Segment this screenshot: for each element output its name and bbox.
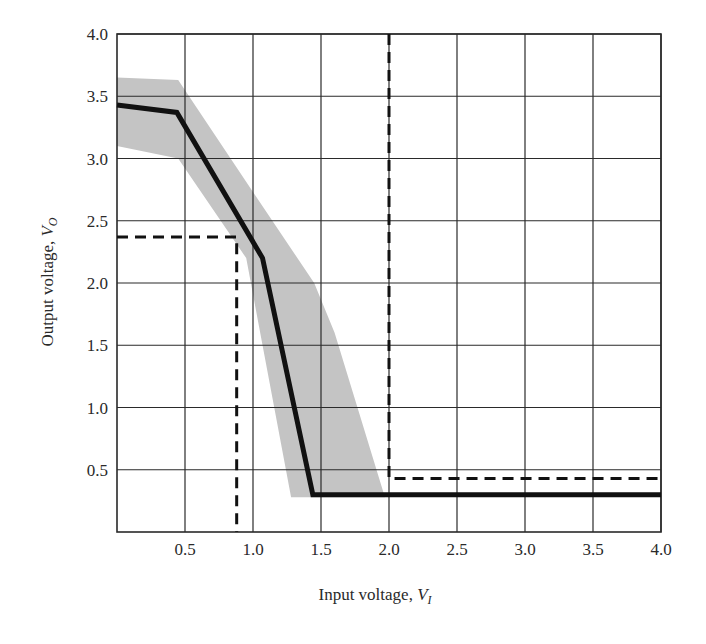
transfer-characteristic-chart: 0.51.01.52.02.53.03.54.00.51.01.52.02.53… xyxy=(0,0,706,644)
x-tick-label: 0.5 xyxy=(174,540,195,559)
x-tick-label: 4.0 xyxy=(650,540,671,559)
x-tick-label: 2.5 xyxy=(446,540,467,559)
y-tick-label: 3.5 xyxy=(87,87,108,106)
y-tick-label: 2.0 xyxy=(87,274,108,293)
x-axis-label: Input voltage, VI xyxy=(318,585,432,607)
y-tick-label: 1.0 xyxy=(87,399,108,418)
x-tick-label: 3.5 xyxy=(582,540,603,559)
tolerance-band xyxy=(117,78,385,498)
x-tick-label: 2.0 xyxy=(378,540,399,559)
tolerance-band-area xyxy=(117,78,385,498)
y-tick-label: 3.0 xyxy=(87,150,108,169)
threshold-dashed-line xyxy=(117,237,237,532)
y-tick-label: 4.0 xyxy=(87,25,108,44)
x-tick-label: 3.0 xyxy=(514,540,535,559)
y-axis-label: Output voltage, VO xyxy=(38,217,60,346)
y-tick-label: 0.5 xyxy=(87,461,108,480)
y-tick-label: 1.5 xyxy=(87,336,108,355)
y-tick-label: 2.5 xyxy=(87,212,108,231)
x-tick-label: 1.0 xyxy=(242,540,263,559)
x-tick-label: 1.5 xyxy=(310,540,331,559)
